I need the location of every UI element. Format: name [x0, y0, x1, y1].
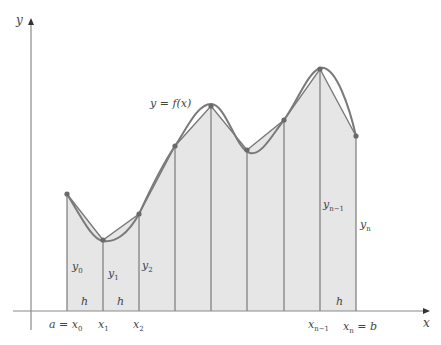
trapezoidal-rule-diagram: y x y = f(x) y0 y1 y2 yn−1 yn h h h a = … — [0, 0, 441, 345]
y-axis-arrow-icon — [28, 18, 34, 25]
tick-label-x1: x1 — [98, 318, 109, 333]
ordinate-label-yn: yn — [359, 218, 371, 233]
width-label-h-1: h — [81, 295, 88, 308]
width-label-h-2: h — [117, 295, 124, 308]
y-axis-label: y — [15, 13, 23, 27]
tick-label-xn-1: xn−1 — [308, 318, 329, 333]
tick-label-x2: x2 — [133, 318, 144, 333]
tick-label-xn: xn = b — [343, 320, 377, 335]
curve-label: y = f(x) — [149, 97, 191, 110]
tick-label-x0: a = x0 — [49, 318, 82, 333]
x-axis-arrow-icon — [423, 308, 430, 314]
width-label-h-n: h — [336, 295, 343, 308]
x-axis-label: x — [423, 316, 430, 330]
